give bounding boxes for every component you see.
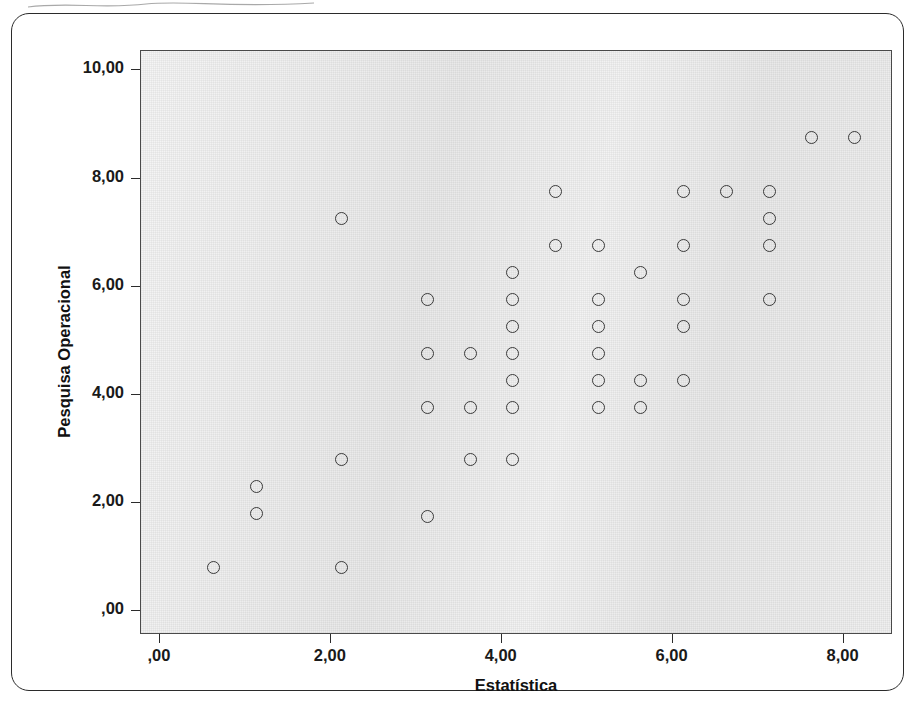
x-axis-title: Estatística xyxy=(140,676,892,695)
data-point xyxy=(592,320,605,333)
data-point xyxy=(506,401,519,414)
x-tick-mark xyxy=(672,634,673,643)
x-tick-mark xyxy=(501,634,502,643)
y-tick-label: 8,00 xyxy=(92,167,124,186)
data-point xyxy=(250,507,263,520)
data-point xyxy=(207,561,220,574)
x-tick-mark xyxy=(330,634,331,643)
data-point xyxy=(464,453,477,466)
x-tick-label: 2,00 xyxy=(314,646,346,665)
figure-page: ,002,004,006,008,0010,00 ,002,004,006,00… xyxy=(0,0,917,716)
y-axis-title: Pesquisa Operacional xyxy=(55,222,74,482)
data-point xyxy=(506,293,519,306)
data-point xyxy=(592,293,605,306)
data-point xyxy=(677,293,690,306)
data-point xyxy=(677,374,690,387)
y-tick-label: ,00 xyxy=(101,599,124,618)
data-point xyxy=(763,239,776,252)
data-point xyxy=(464,401,477,414)
x-tick-label: 8,00 xyxy=(826,646,858,665)
data-point xyxy=(592,401,605,414)
data-point xyxy=(634,374,647,387)
data-point xyxy=(335,212,348,225)
paper-texture xyxy=(141,51,891,633)
scan-artifact xyxy=(26,0,316,10)
data-point xyxy=(763,185,776,198)
y-tick-mark xyxy=(131,178,140,179)
x-tick-mark xyxy=(843,634,844,643)
data-point xyxy=(592,239,605,252)
data-point xyxy=(677,239,690,252)
data-point xyxy=(421,347,434,360)
data-point xyxy=(634,401,647,414)
data-point xyxy=(763,212,776,225)
x-tick-label: 6,00 xyxy=(656,646,688,665)
data-point xyxy=(549,239,562,252)
data-point xyxy=(250,480,263,493)
data-point xyxy=(506,320,519,333)
x-tick-label: ,00 xyxy=(147,646,170,665)
data-point xyxy=(464,347,477,360)
data-point xyxy=(506,374,519,387)
data-point xyxy=(549,185,562,198)
y-tick-mark xyxy=(131,69,140,70)
data-point xyxy=(506,266,519,279)
y-tick-mark xyxy=(131,394,140,395)
data-point xyxy=(335,561,348,574)
y-tick-label: 10,00 xyxy=(83,58,124,77)
data-point xyxy=(421,293,434,306)
y-tick-mark xyxy=(131,502,140,503)
data-point xyxy=(677,320,690,333)
data-point xyxy=(421,401,434,414)
data-point xyxy=(677,185,690,198)
data-point xyxy=(805,131,818,144)
y-tick-label: 6,00 xyxy=(92,275,124,294)
data-point xyxy=(506,453,519,466)
data-point xyxy=(421,510,434,523)
data-point xyxy=(634,266,647,279)
y-tick-mark xyxy=(131,286,140,287)
data-point xyxy=(720,185,733,198)
data-point xyxy=(592,347,605,360)
data-point xyxy=(592,374,605,387)
y-tick-label: 2,00 xyxy=(92,491,124,510)
y-tick-mark xyxy=(131,610,140,611)
y-tick-label: 4,00 xyxy=(92,383,124,402)
data-point xyxy=(506,347,519,360)
scatter-plot-area[interactable] xyxy=(140,50,892,634)
data-point xyxy=(848,131,861,144)
figure-frame: ,002,004,006,008,0010,00 ,002,004,006,00… xyxy=(11,13,904,691)
data-point xyxy=(763,293,776,306)
x-tick-mark xyxy=(159,634,160,643)
data-point xyxy=(335,453,348,466)
x-tick-label: 4,00 xyxy=(485,646,517,665)
